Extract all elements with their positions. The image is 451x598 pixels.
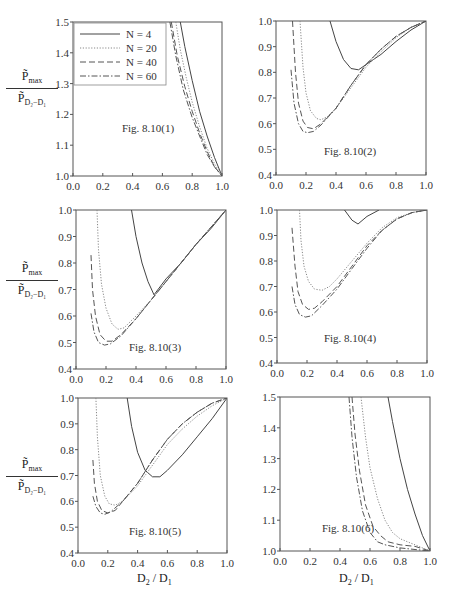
legend: N = 4N = 20N = 40N = 60	[74, 23, 166, 85]
x-tick-label: 0.2	[101, 557, 115, 569]
series-line-n4	[330, 21, 426, 70]
y-tick-label: 1.0	[258, 15, 272, 27]
x-tick-label: 0.6	[359, 179, 373, 191]
y-axis-label-row2: P̃max P̃D₂−D₁	[6, 262, 58, 300]
panel-title: Fig. 8.10(3)	[129, 341, 182, 354]
series-line-n4	[127, 398, 227, 477]
y-label-numerator-sub: max	[28, 464, 42, 473]
legend-label: N = 4	[126, 28, 152, 40]
series-line-n40	[292, 210, 427, 309]
x-tick-label: 0.4	[131, 557, 145, 569]
panel-title: Fig. 8.10(4)	[324, 332, 377, 345]
y-axis-label-row3: P̃max P̃D₂−D₁	[6, 458, 58, 496]
y-tick-label: 0.4	[60, 547, 74, 559]
y-tick-label: 1.3	[262, 453, 276, 465]
y-label-denominator: P̃	[18, 479, 25, 493]
y-tick-label: 1.4	[262, 422, 276, 434]
y-tick-label: 1.0	[259, 204, 273, 216]
series-line-n20	[300, 21, 426, 120]
legend-label: N = 40	[126, 56, 157, 68]
x-tick-label: 0.6	[360, 367, 374, 379]
y-tick-label: 0.9	[60, 418, 74, 430]
x-tick-label: 1.0	[215, 180, 229, 192]
chart-panel-3: 0.00.20.40.60.81.00.40.50.60.70.80.91.0F…	[58, 204, 233, 385]
legend-label: N = 20	[126, 42, 157, 54]
y-label-denominator-sub: D₂−D₁	[25, 487, 47, 496]
x-tick-label: 0.2	[300, 367, 314, 379]
x-tick-label: 0.8	[185, 180, 199, 192]
figure-canvas: 0.00.20.40.60.81.01.01.11.21.31.41.5Fig.…	[0, 0, 451, 598]
x-axis-label-left: D2 / D1	[137, 571, 172, 587]
panel-title: Fig. 8.10(5)	[129, 525, 182, 538]
x-tick-label: 0.2	[96, 180, 110, 192]
y-tick-label: 0.5	[58, 337, 72, 349]
x-label-main: D	[339, 571, 348, 585]
y-tick-label: 0.9	[258, 41, 272, 53]
series-line-n4	[180, 22, 222, 176]
y-tick-label: 0.4	[58, 363, 72, 375]
y-label-denominator: P̃	[18, 283, 25, 297]
series-line-n20	[96, 398, 227, 505]
x-tick-label: 1.0	[220, 557, 234, 569]
y-tick-label: 0.6	[259, 306, 273, 318]
x-tick-label: 0.8	[190, 557, 204, 569]
x-tick-label: 0.6	[159, 373, 173, 385]
y-tick-label: 0.7	[58, 284, 72, 296]
y-label-denominator: P̃	[18, 91, 25, 105]
series-line-n4	[345, 210, 380, 224]
y-tick-label: 0.6	[60, 495, 74, 507]
legend-label: N = 60	[126, 70, 157, 82]
y-tick-label: 0.4	[258, 169, 272, 181]
x-tick-label: 0.4	[333, 555, 347, 567]
series-line-n60	[93, 398, 227, 514]
chart-panel-4: 0.00.20.40.60.81.00.40.50.60.70.80.91.0F…	[259, 204, 434, 379]
x-label-sub2: 1	[168, 578, 172, 587]
x-label-main: D	[137, 571, 146, 585]
x-tick-label: 0.4	[329, 179, 343, 191]
x-label-sub2: 1	[370, 578, 374, 587]
y-tick-label: 1.5	[55, 16, 69, 28]
y-tick-label: 1.0	[58, 204, 72, 216]
x-label-sep: / D	[352, 571, 370, 585]
x-tick-label: 0.8	[189, 373, 203, 385]
y-tick-label: 1.0	[55, 170, 69, 182]
x-tick-label: 0.6	[161, 557, 175, 569]
y-tick-label: 1.4	[55, 47, 69, 59]
series-line-n60	[91, 210, 226, 345]
series-line-n60	[292, 210, 427, 317]
x-tick-label: 0.6	[156, 180, 170, 192]
y-tick-label: 0.5	[60, 521, 74, 533]
x-tick-label: 0.8	[389, 179, 403, 191]
panel-title: Fig. 8.10(1)	[122, 122, 175, 135]
x-tick-label: 1.0	[420, 367, 434, 379]
x-tick-label: 0.2	[299, 179, 313, 191]
y-tick-label: 0.6	[258, 118, 272, 130]
chart-panel-2: 0.00.20.40.60.81.00.40.50.60.70.80.91.0F…	[258, 15, 433, 191]
x-tick-label: 0.8	[390, 367, 404, 379]
panel-title: Fig. 8.10(2)	[324, 145, 377, 158]
y-axis-label-row1: P̃max P̃D₂−D₁	[6, 70, 58, 108]
y-tick-label: 1.1	[55, 139, 69, 151]
y-tick-label: 0.5	[259, 332, 273, 344]
series-line-n20	[97, 210, 226, 329]
y-tick-label: 1.2	[55, 108, 69, 120]
x-tick-label: 0.4	[126, 180, 140, 192]
x-tick-label: 0.2	[99, 373, 113, 385]
y-tick-label: 0.9	[58, 231, 72, 243]
y-tick-label: 1.2	[262, 483, 276, 495]
series-line-n20	[176, 22, 222, 176]
x-tick-label: 1.0	[419, 179, 433, 191]
y-tick-label: 0.8	[58, 257, 72, 269]
panel-title: Fig. 8.10(6)	[322, 522, 375, 535]
series-line-n4	[388, 397, 430, 551]
y-tick-label: 0.6	[58, 310, 72, 322]
y-tick-label: 0.9	[259, 230, 273, 242]
x-tick-label: 0.8	[393, 555, 407, 567]
x-tick-label: 1.0	[423, 555, 437, 567]
series-line-n4	[132, 210, 227, 295]
y-tick-label: 0.5	[258, 143, 272, 155]
y-tick-label: 0.8	[258, 66, 272, 78]
y-label-denominator-sub: D₂−D₁	[25, 291, 47, 300]
y-tick-label: 0.4	[259, 357, 273, 369]
y-tick-label: 0.7	[258, 92, 272, 104]
